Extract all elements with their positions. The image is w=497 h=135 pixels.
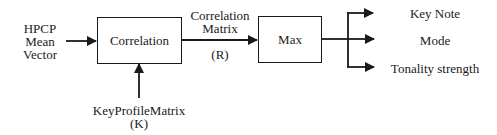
hpcp-line-3: Vector: [18, 48, 62, 61]
max-block: Max: [258, 16, 322, 63]
key-profile-input-label: KeyProfileMatrix (K): [84, 104, 194, 130]
max-block-label: Max: [278, 32, 302, 48]
output-mode: Mode: [380, 34, 490, 47]
correlation-matrix-line-2: Matrix: [182, 22, 258, 35]
key-profile-line-2: (K): [84, 117, 194, 130]
output-tonality-strength: Tonality strength: [380, 62, 490, 75]
correlation-matrix-label: Correlation Matrix: [182, 9, 258, 35]
correlation-block: Correlation: [97, 17, 182, 64]
output-key-note: Key Note: [380, 7, 490, 20]
hpcp-input-label: HPCP Mean Vector: [18, 22, 62, 61]
correlation-matrix-symbol: (R): [200, 48, 240, 61]
correlation-block-label: Correlation: [110, 33, 169, 49]
